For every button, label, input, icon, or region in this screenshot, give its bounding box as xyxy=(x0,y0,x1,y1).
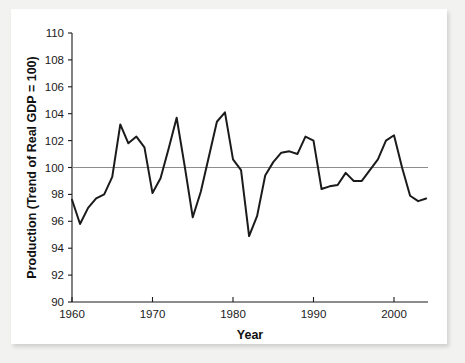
y-tick-label-102: 102 xyxy=(45,135,64,147)
y-tick-label-108: 108 xyxy=(45,54,64,66)
x-tick-label-1960: 1960 xyxy=(59,308,85,320)
y-tick-label-98: 98 xyxy=(51,188,64,200)
y-tick-label-106: 106 xyxy=(45,81,64,93)
line-chart-svg: 9092949698100102104106108110 19601970198… xyxy=(0,0,465,363)
y-tick-label-110: 110 xyxy=(46,27,64,39)
x-tick-label-1970: 1970 xyxy=(140,308,166,320)
y-axis-title: Production (Trend of Real GDP = 100) xyxy=(25,56,39,278)
x-tick-label-1990: 1990 xyxy=(301,308,327,320)
x-axis-ticks xyxy=(72,297,394,302)
x-tick-label-1980: 1980 xyxy=(220,308,246,320)
x-axis-title: Year xyxy=(237,328,264,342)
y-tick-label-100: 100 xyxy=(45,162,64,174)
x-tick-label-2000: 2000 xyxy=(381,308,407,320)
series-line-0 xyxy=(72,112,426,236)
y-tick-label-94: 94 xyxy=(51,242,64,254)
page-background: 9092949698100102104106108110 19601970198… xyxy=(0,0,465,363)
y-tick-label-90: 90 xyxy=(51,296,64,308)
x-axis-tick-labels: 19601970198019902000 xyxy=(59,308,407,320)
data-series-production xyxy=(72,112,426,236)
y-tick-label-92: 92 xyxy=(51,269,64,281)
y-axis-ticks xyxy=(68,33,72,302)
y-axis-tick-labels: 9092949698100102104106108110 xyxy=(45,27,65,308)
y-tick-label-96: 96 xyxy=(51,215,64,227)
chart-figure: 9092949698100102104106108110 19601970198… xyxy=(0,0,465,363)
y-tick-label-104: 104 xyxy=(45,108,65,120)
